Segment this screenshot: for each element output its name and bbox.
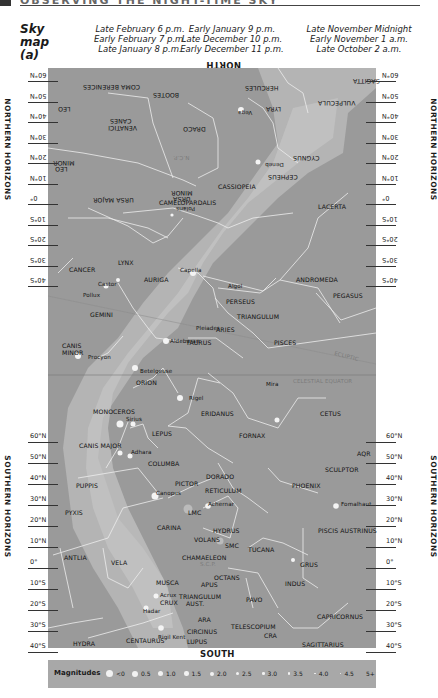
tick-line (28, 122, 58, 123)
northern-horizons-left: NORTHERN HORIZONS (3, 98, 12, 200)
constellation-label: VELA (111, 559, 127, 566)
constellation-label: CRUX (160, 599, 178, 606)
star-label: Fomalhaut (341, 501, 371, 507)
star-label: N.C.P. (173, 155, 190, 161)
tick-label: 40°N (386, 474, 402, 482)
tick-label: 20°N (386, 516, 402, 524)
constellation-label: PYXIS (65, 509, 83, 516)
tick-line (28, 81, 58, 82)
tick-label: 0° (382, 194, 389, 202)
constellation-label: ERIDANUS (201, 410, 234, 417)
tick-label: 10°N (30, 537, 46, 545)
tick-label: 0° (386, 558, 393, 566)
constellation-label: MUSCA (156, 579, 179, 586)
constellation-label: AURIGA (144, 276, 169, 283)
legend-label: 0.5 (141, 670, 151, 677)
tick-label: 30°S (30, 256, 46, 264)
constellation-label: LACERTA (318, 203, 346, 210)
southern-horizons-left: SOUTHERN HORIZONS (3, 455, 12, 557)
tick-line (366, 652, 396, 653)
constellation-label: FORNAX (239, 432, 265, 439)
legend-label: 1.0 (166, 670, 176, 677)
tick-label: 20°N (30, 516, 46, 524)
star-label: Acrux (160, 592, 176, 598)
star-label: Polaris (176, 206, 195, 212)
tick-line (28, 505, 58, 506)
tick-line (28, 286, 58, 287)
tick-label: 30°N (382, 133, 398, 141)
tick-label: 20°S (30, 600, 46, 608)
time-entry: Early November 1 a.m. (294, 34, 424, 44)
constellation-label: LEO (55, 166, 68, 173)
constellation-label: DORADO (206, 473, 234, 480)
magnitude-dot-icon (106, 670, 113, 677)
magnitude-dot-icon (314, 673, 316, 675)
time-entry: Late November Midnight (294, 24, 424, 34)
time-entry: Late October 2 a.m. (294, 44, 424, 54)
legend-item: 4.0 (314, 670, 328, 677)
star-label: Adhara (131, 449, 152, 455)
tick-label: 10°S (30, 579, 46, 587)
legend-label: 3.5 (293, 670, 303, 677)
time-entry: Early January 9 p.m. (172, 24, 292, 34)
header-rule (20, 5, 420, 6)
tick-line (366, 81, 396, 82)
constellation-label: HYDRA (73, 640, 95, 647)
constellation-label: LMC (188, 509, 201, 516)
tick-line (366, 484, 396, 485)
tick-label: 0° (30, 194, 37, 202)
magnitude-dot-icon (210, 672, 214, 676)
star-label: Pleiades (196, 325, 220, 331)
constellation-label: URSA MAJOR (93, 197, 134, 204)
constellation-label: CHAMAELEON (182, 554, 227, 561)
legend-item: 1.5 (184, 670, 201, 677)
constellation-label: CANCER (69, 266, 95, 273)
constellation-label: CANIS (62, 342, 81, 349)
tick-label: 10°S (30, 215, 46, 223)
south-label: SOUTH (200, 649, 235, 659)
tick-line (366, 163, 396, 164)
legend-item: <0 (106, 670, 125, 677)
constellation-label: COLUMBA (148, 460, 179, 467)
constellation-label: LYNX (118, 259, 134, 266)
tick-label: 40°N (30, 474, 46, 482)
tick-label: 20°N (382, 153, 398, 161)
star-label: Algol (228, 283, 242, 289)
tick-label: 50°N (30, 92, 46, 100)
constellation-label: PICTOR (175, 480, 198, 487)
constellation-label: PEGASUS (333, 292, 363, 299)
constellation-label: TRIANGULUM (179, 593, 221, 600)
tick-label: 60°N (382, 71, 398, 79)
magnitude-dot-icon (132, 671, 138, 677)
tick-label: 40°S (30, 642, 46, 650)
constellation-label: PAVO (246, 596, 263, 603)
tick-line (366, 102, 396, 103)
constellation-label: TELESCOPIUM (231, 623, 276, 630)
tick-label: 40°N (30, 112, 46, 120)
constellation-label: AUST. (186, 600, 204, 607)
header-block (0, 0, 11, 6)
star-label: S.C.P. (200, 561, 216, 567)
legend-item: 2.5 (236, 670, 252, 677)
tick-label: 30°S (386, 621, 402, 629)
map-annotation: CELESTIAL EQUATOR (293, 378, 352, 384)
tick-line (366, 122, 396, 123)
tick-label: 30°N (30, 495, 46, 503)
legend-label: 2.5 (242, 670, 252, 677)
constellation-label: CANIS MAJOR (79, 442, 122, 449)
star-label: Rigel (189, 395, 204, 401)
tick-label: 10°N (386, 537, 402, 545)
constellation-label: VULPECULA (318, 100, 355, 107)
page-header: OBSERVING THE NIGHT-TIME SKY (0, 0, 437, 8)
magnitude-dot-icon (262, 672, 265, 675)
magnitude-dot-icon (340, 673, 341, 674)
legend-item: 2.0 (210, 670, 227, 677)
constellation-label: VOLANS (194, 536, 220, 543)
tick-label: 20°S (386, 600, 402, 608)
tick-line (28, 589, 58, 590)
tick-label: 20°S (30, 235, 46, 243)
southern-horizons-right: SOUTHERN HORIZONS (429, 455, 438, 557)
tick-line (28, 652, 58, 653)
tick-line (366, 505, 396, 506)
constellation-label: BOOTES (153, 92, 179, 99)
